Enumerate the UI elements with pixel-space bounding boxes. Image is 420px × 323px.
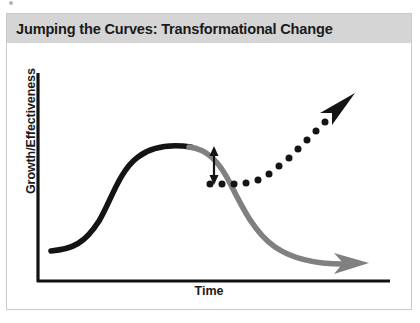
curve-one-black-segment	[51, 146, 191, 251]
figure-title: Jumping the Curves: Transformational Cha…	[16, 20, 333, 38]
y-axis-label: Growth/Effectiveness	[24, 74, 38, 194]
x-axis-label: Time	[7, 284, 411, 298]
chart-canvas	[7, 43, 412, 310]
curve-one-gray-segment	[189, 147, 343, 264]
plot-area: Growth/Effectiveness Time	[7, 43, 411, 310]
figure-header-band: Jumping the Curves: Transformational Cha…	[7, 14, 411, 43]
top-edge-speck	[9, 1, 13, 5]
figure-container: Jumping the Curves: Transformational Cha…	[6, 13, 412, 310]
